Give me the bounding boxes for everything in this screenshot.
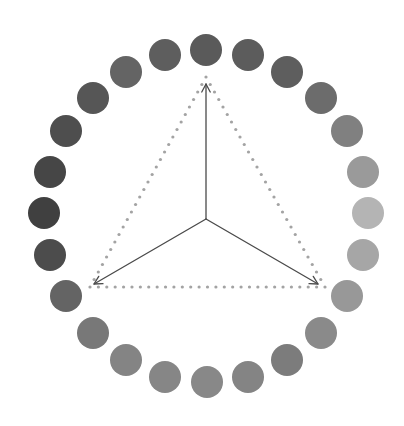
triangle-dot — [139, 285, 142, 288]
triangle-dot — [255, 165, 258, 168]
triangle-dot — [319, 278, 322, 281]
triangle-dot — [298, 285, 301, 288]
triangle-dot — [243, 143, 246, 146]
triangle-dot — [122, 225, 125, 228]
triangle-dot — [248, 285, 251, 288]
triangle-dot — [239, 285, 242, 288]
triangle-dot — [105, 285, 108, 288]
triangle-dot — [226, 113, 229, 116]
triangle-dot — [192, 98, 195, 101]
triangle-dot — [238, 135, 241, 138]
ring-circle-11 — [232, 361, 264, 393]
triangle-dot — [315, 270, 318, 273]
ring-circle-23 — [149, 39, 181, 71]
triangle-dot — [290, 285, 293, 288]
ring-circle-8 — [331, 280, 363, 312]
triangle-dot — [272, 195, 275, 198]
triangle-dot — [126, 218, 129, 221]
triangle-dot — [209, 83, 212, 86]
triangle-dot — [289, 225, 292, 228]
ring-circle-19 — [34, 156, 66, 188]
triangle-dot — [105, 255, 108, 258]
triangle-dot — [223, 285, 226, 288]
triangle-dot — [151, 173, 154, 176]
triangle-dot — [113, 240, 116, 243]
ring-circle-6 — [352, 197, 384, 229]
triangle-dot — [315, 285, 318, 288]
ring-circle-21 — [77, 82, 109, 114]
ring-circle-0 — [190, 34, 222, 66]
triangle-dot — [234, 128, 237, 131]
triangle-dot — [167, 143, 170, 146]
ring-circle-15 — [77, 317, 109, 349]
triangle-dot — [134, 203, 137, 206]
triangle-dot — [273, 285, 276, 288]
ring-circle-20 — [50, 115, 82, 147]
triangle-dot — [198, 285, 201, 288]
triangle-dot — [156, 285, 159, 288]
triangle-dot — [200, 83, 203, 86]
triangle-dot — [302, 248, 305, 251]
ring-circle-7 — [347, 239, 379, 271]
triangle-dot — [311, 263, 314, 266]
triangle-dot — [265, 285, 268, 288]
ring-circle-3 — [305, 82, 337, 114]
triangle-dot — [117, 233, 120, 236]
triangle-dot — [93, 278, 96, 281]
triangle-dot — [88, 285, 91, 288]
triangle-dot — [230, 120, 233, 123]
ring-circle-4 — [331, 115, 363, 147]
triangle-dot — [122, 285, 125, 288]
triangle-dot — [130, 210, 133, 213]
triangle-dot — [281, 285, 284, 288]
triangle-dot — [159, 158, 162, 161]
triangle-dot — [101, 263, 104, 266]
diagram-stage — [0, 0, 404, 426]
ring-circle-16 — [50, 280, 82, 312]
ring-circle-17 — [34, 239, 66, 271]
ring-circle-14 — [110, 344, 142, 376]
triangle-dot — [142, 188, 145, 191]
triangle-dot — [188, 105, 191, 108]
ring-circle-1 — [232, 39, 264, 71]
triangle-dot — [172, 285, 175, 288]
triangle-dot — [247, 150, 250, 153]
triangle-dot — [146, 180, 149, 183]
triangle-dot — [306, 255, 309, 258]
triangle-dot — [298, 240, 301, 243]
triangle-dot — [323, 285, 326, 288]
triangle-dot — [214, 285, 217, 288]
triangle-dot — [147, 285, 150, 288]
ring-circle-18 — [28, 197, 60, 229]
ring-circle-22 — [110, 56, 142, 88]
triangle-dot — [213, 90, 216, 93]
triangle-dot — [221, 105, 224, 108]
ring-circle-2 — [271, 56, 303, 88]
triangle-dot — [181, 285, 184, 288]
triangle-dot — [307, 285, 310, 288]
triangle-dot — [175, 128, 178, 131]
triangle-dot — [163, 150, 166, 153]
triangle-dot — [294, 233, 297, 236]
triangle-dot — [171, 135, 174, 138]
triangle-dot — [189, 285, 192, 288]
triangle-dot — [256, 285, 259, 288]
triangle-dot — [260, 173, 263, 176]
triangle-dot — [251, 158, 254, 161]
triangle-dot — [130, 285, 133, 288]
triangle-dot — [164, 285, 167, 288]
color-wheel-diagram — [0, 0, 404, 426]
triangle-dot — [217, 98, 220, 101]
triangle-dot — [97, 270, 100, 273]
triangle-dot — [231, 285, 234, 288]
triangle-dot — [196, 90, 199, 93]
triangle-dot — [264, 180, 267, 183]
triangle-dot — [97, 285, 100, 288]
ring-circle-12 — [191, 366, 223, 398]
triangle-dot — [180, 120, 183, 123]
triangle-dot — [138, 195, 141, 198]
triangle-dot — [204, 75, 207, 78]
triangle-dot — [285, 218, 288, 221]
triangle-dot — [184, 113, 187, 116]
triangle-dot — [277, 203, 280, 206]
